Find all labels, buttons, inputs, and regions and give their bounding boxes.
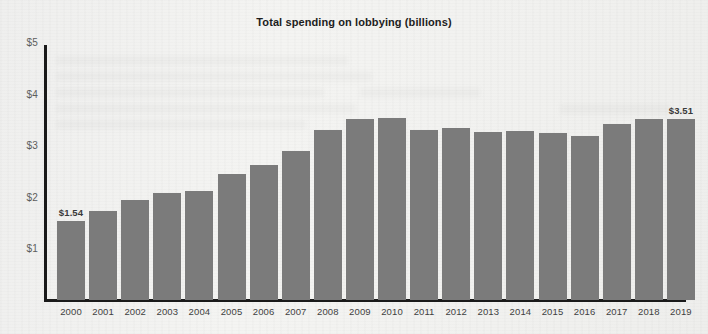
x-tick-label: 2017 (606, 306, 628, 317)
bar (346, 119, 374, 300)
y-tick-label: $4 (10, 88, 38, 99)
x-tick-label: 2019 (670, 306, 692, 317)
bar (314, 130, 342, 300)
bar (250, 165, 278, 300)
x-tick-label: 2005 (221, 306, 243, 317)
x-tick-label: 2015 (542, 306, 564, 317)
bar (410, 130, 438, 300)
y-tick-label: $2 (10, 191, 38, 202)
x-tick-label: 2012 (445, 306, 467, 317)
bar (89, 211, 117, 300)
bar-value-label: $1.54 (59, 207, 83, 218)
bar (442, 128, 470, 300)
bar (603, 124, 631, 300)
x-tick-label: 2010 (381, 306, 403, 317)
x-tick-label: 2018 (638, 306, 660, 317)
x-tick-label: 2001 (92, 306, 114, 317)
bar (667, 119, 695, 300)
bar (539, 133, 567, 300)
bar (153, 193, 181, 300)
x-tick-label: 2009 (349, 306, 371, 317)
bar (185, 191, 213, 300)
bar (474, 132, 502, 300)
x-tick-label: 2006 (253, 306, 275, 317)
y-tick-label: $1 (10, 243, 38, 254)
x-tick-label: 2016 (574, 306, 596, 317)
bar (635, 119, 663, 300)
x-tick-label: 2002 (124, 306, 146, 317)
bar-chart-plot-area: $1$2$3$4$5 $1.54$3.51 200020012002200320… (0, 0, 708, 334)
x-tick-label: 2000 (60, 306, 82, 317)
y-axis-line (44, 45, 47, 301)
bar (378, 118, 406, 300)
y-tick-label: $3 (10, 140, 38, 151)
y-tick-label: $5 (10, 37, 38, 48)
x-tick-label: 2003 (157, 306, 179, 317)
bar (282, 151, 310, 300)
bar (506, 131, 534, 300)
bar (571, 136, 599, 300)
x-tick-label: 2008 (317, 306, 339, 317)
x-tick-label: 2011 (414, 306, 435, 317)
x-tick-label: 2004 (189, 306, 211, 317)
x-tick-label: 2014 (510, 306, 532, 317)
bar (57, 221, 85, 300)
bar-value-label: $3.51 (669, 105, 693, 116)
bar (121, 200, 149, 300)
bar (218, 174, 246, 300)
x-tick-label: 2007 (285, 306, 307, 317)
x-tick-label: 2013 (478, 306, 500, 317)
